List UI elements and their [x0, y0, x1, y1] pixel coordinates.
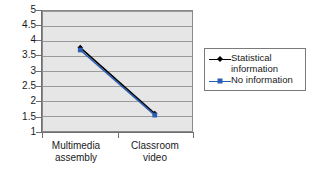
- x-axis-tick: [193, 133, 194, 138]
- legend-label: No information: [231, 75, 293, 86]
- diamond-icon: [217, 56, 223, 62]
- series-line: [80, 48, 155, 114]
- line-chart: 5 4.5 4 3.5 3 2.5 2 1.5 1 Multimedia ass…: [0, 0, 318, 171]
- y-axis-label-1: 1: [2, 127, 36, 137]
- x-axis-tick: [118, 133, 119, 138]
- y-axis-tick: [36, 117, 41, 118]
- legend-label: Statistical information: [231, 53, 278, 74]
- y-axis-label-3: 3: [2, 66, 36, 76]
- series-line: [80, 50, 155, 115]
- y-axis-label-3-5: 3.5: [2, 50, 36, 60]
- x-axis-label-line1: Multimedia: [33, 140, 119, 152]
- y-axis-label-2: 2: [2, 96, 36, 106]
- y-axis-tick: [36, 10, 41, 11]
- y-axis-label-2-5: 2.5: [2, 81, 36, 91]
- y-axis-label-4-5: 4.5: [2, 20, 36, 30]
- data-point-marker: [152, 113, 157, 118]
- legend-item-no-information[interactable]: No information: [209, 75, 293, 87]
- y-axis-tick: [36, 71, 41, 72]
- y-axis-line: [41, 10, 42, 133]
- y-axis-tick: [36, 86, 41, 87]
- x-axis-label-line2: video: [112, 152, 198, 164]
- legend-marker-square-icon: [209, 76, 231, 87]
- y-axis-label-5: 5: [2, 5, 36, 15]
- y-axis-label-4: 4: [2, 35, 36, 45]
- y-axis-tick: [36, 40, 41, 41]
- y-axis-tick: [36, 55, 41, 56]
- x-axis-tick: [42, 133, 43, 138]
- x-axis-label-classroom-video: Classroom video: [112, 140, 198, 164]
- y-axis-tick: [36, 132, 41, 133]
- legend-item-statistical-information[interactable]: Statistical information: [209, 53, 278, 74]
- x-axis-label-line1: Classroom: [112, 140, 198, 152]
- y-axis-tick: [36, 101, 41, 102]
- legend-marker-diamond-icon: [209, 54, 231, 65]
- data-point-marker: [78, 48, 83, 53]
- legend: Statistical information No information: [204, 48, 306, 91]
- series-layer: [43, 11, 192, 131]
- y-axis-tick: [36, 25, 41, 26]
- x-axis-label-multimedia-assembly: Multimedia assembly: [33, 140, 119, 164]
- x-axis-label-line2: assembly: [33, 152, 119, 164]
- y-axis-label-1-5: 1.5: [2, 112, 36, 122]
- square-icon: [217, 78, 223, 84]
- plot-area: [42, 10, 193, 132]
